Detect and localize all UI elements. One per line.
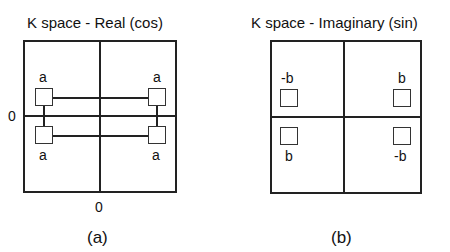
point-bottom-right xyxy=(393,127,411,145)
point-label: a xyxy=(153,70,161,84)
point-label: b xyxy=(285,149,293,163)
point-top-right xyxy=(393,89,411,107)
point-label: a xyxy=(152,148,160,162)
point-bottom-left xyxy=(35,126,53,144)
ky-zero-label: 0 xyxy=(8,109,16,123)
point-bottom-left xyxy=(280,127,298,145)
point-top-left xyxy=(35,88,53,106)
panel-imaginary-caption: (b) xyxy=(331,228,352,248)
point-bottom-right xyxy=(148,126,166,144)
connector-right xyxy=(156,106,158,126)
point-label: a xyxy=(39,70,47,84)
connector-bottom xyxy=(53,135,148,137)
point-label: -b xyxy=(281,71,293,85)
point-top-left xyxy=(280,89,298,107)
panel-real-caption: (a) xyxy=(87,228,108,248)
kx-axis-line xyxy=(23,115,177,117)
connector-top xyxy=(53,97,148,99)
point-label: -b xyxy=(394,149,406,163)
panel-real-title: K space - Real (cos) xyxy=(27,14,163,31)
kx-axis-line xyxy=(270,116,422,118)
point-label: a xyxy=(39,148,47,162)
point-top-right xyxy=(148,88,166,106)
panel-imaginary-title: K space - Imaginary (sin) xyxy=(251,14,418,31)
connector-left xyxy=(43,106,45,126)
kx-zero-label: 0 xyxy=(95,200,103,214)
point-label: b xyxy=(398,71,406,85)
